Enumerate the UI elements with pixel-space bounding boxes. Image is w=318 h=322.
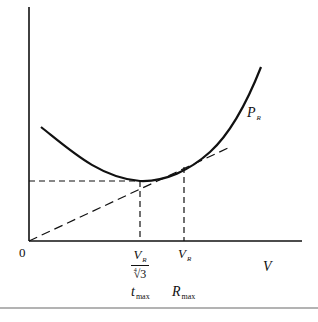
tmax-denominator: 4√3	[125, 266, 155, 282]
curve-label-main: P	[247, 105, 256, 120]
tmax-numerator: VR	[131, 247, 149, 266]
x-axis-label: V	[263, 260, 272, 274]
curve-label: PR	[247, 106, 261, 122]
power-required-curve	[41, 67, 261, 181]
origin-label: 0	[19, 246, 26, 259]
tmax-point-label: tmax	[131, 285, 150, 301]
rmax-value-label: VR	[178, 247, 191, 263]
curve-label-sub: R	[257, 114, 261, 122]
tmax-value-label: VR 4√3	[125, 247, 155, 282]
rmax-point-label: Rmax	[172, 285, 195, 301]
